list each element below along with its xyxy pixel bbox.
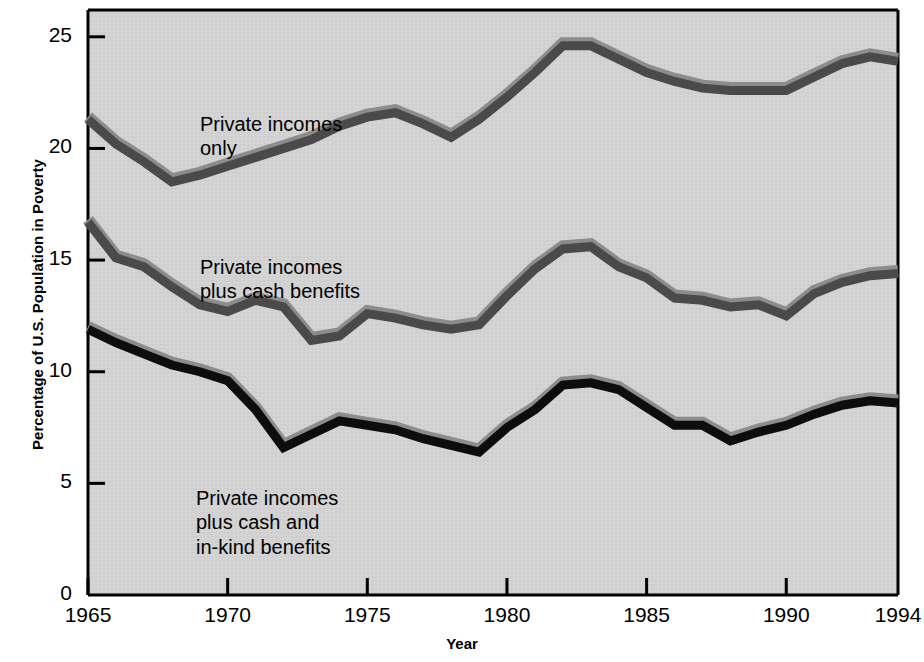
- x-tick-label: 1985: [587, 603, 707, 627]
- chart-canvas: [0, 0, 924, 662]
- y-axis-title: Percentage of U.S. Population in Poverty: [29, 25, 46, 585]
- poverty-line-chart: 0510152025 1965197019751980198519901994 …: [0, 0, 924, 662]
- x-tick-label: 1990: [726, 603, 846, 627]
- x-tick-label: 1970: [168, 603, 288, 627]
- x-tick-label: 1975: [307, 603, 427, 627]
- x-axis-title: Year: [0, 635, 924, 652]
- x-tick-label: 1994: [838, 603, 924, 627]
- series-label-2: Private incomes plus cash and in-kind be…: [196, 486, 338, 559]
- series-label-1: Private incomes plus cash benefits: [200, 255, 360, 304]
- x-tick-label: 1965: [28, 603, 148, 627]
- y-tick-label: 0: [0, 581, 72, 605]
- series-label-0: Private incomes only: [200, 112, 342, 161]
- x-tick-label: 1980: [447, 603, 567, 627]
